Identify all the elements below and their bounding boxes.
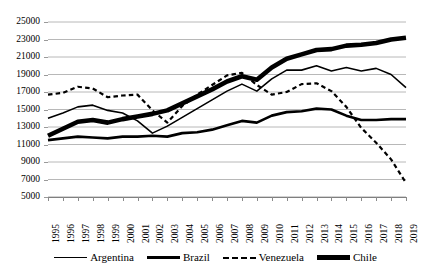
x-axis-label: 2015 (350, 224, 360, 243)
line-thick-icon (317, 255, 350, 260)
x-axis-label: 2006 (216, 224, 226, 243)
x-axis-label: 2010 (276, 224, 286, 243)
x-axis-label: 2011 (291, 224, 301, 243)
y-axis-label: 11000 (17, 140, 40, 150)
legend-item-venezuela[interactable]: Venezuela (223, 252, 304, 263)
line-dashed-icon (223, 257, 256, 259)
legend-item-brazil[interactable]: Brazil (147, 252, 210, 263)
x-axis-label: 2002 (156, 224, 166, 243)
x-axis-labels: 1995199619971998199920002001200220032004… (48, 201, 406, 247)
x-axis-label: 2013 (321, 224, 331, 243)
x-axis-label: 2014 (335, 224, 345, 243)
x-axis-label: 2007 (231, 224, 241, 243)
x-axis-label: 2005 (201, 224, 211, 243)
x-axis-label: 1999 (112, 224, 122, 243)
line-medium-icon (147, 256, 180, 259)
x-axis-label: 2016 (365, 224, 375, 243)
x-axis-label: 2000 (127, 224, 137, 243)
y-axis-label: 9000 (21, 157, 40, 167)
x-axis-label: 2017 (380, 224, 390, 243)
x-axis-label: 2009 (261, 224, 271, 243)
x-axis-label: 2003 (171, 224, 181, 243)
chart-legend: ArgentinaBrazilVenezuelaChile (0, 252, 431, 263)
x-axis-label: 2019 (410, 224, 420, 243)
series-line-chile (48, 38, 406, 136)
legend-label: Brazil (183, 252, 210, 263)
legend-label: Chile (353, 252, 377, 263)
legend-item-chile[interactable]: Chile (317, 252, 377, 263)
y-axis: 2500023000210001900017000150001300011000… (0, 22, 44, 197)
x-axis-label: 1995 (52, 224, 62, 243)
series-line-brazil (48, 109, 406, 141)
chart-figure: 2500023000210001900017000150001300011000… (0, 0, 431, 278)
y-axis-label: 13000 (16, 122, 40, 132)
x-axis-label: 1998 (97, 224, 107, 243)
y-axis-label: 25000 (16, 17, 40, 27)
legend-label: Venezuela (259, 252, 304, 263)
legend-item-argentina[interactable]: Argentina (54, 252, 134, 263)
y-axis-label: 17000 (16, 87, 40, 97)
x-axis-label: 2001 (142, 224, 152, 243)
x-axis-label: 2008 (246, 224, 256, 243)
chart-canvas (48, 22, 406, 197)
x-axis-label: 1997 (82, 224, 92, 243)
series-line-venezuela (48, 73, 406, 183)
x-axis-label: 1996 (67, 224, 77, 243)
y-axis-label: 5000 (21, 192, 40, 202)
x-axis-label: 2018 (395, 224, 405, 243)
plot-area (48, 22, 406, 197)
legend-label: Argentina (90, 252, 134, 263)
y-axis-label: 21000 (16, 52, 40, 62)
y-axis-label: 19000 (16, 70, 40, 80)
y-axis-label: 23000 (16, 35, 40, 45)
line-thin-icon (54, 257, 87, 259)
y-axis-label: 15000 (16, 105, 40, 115)
y-axis-label: 7000 (21, 175, 40, 185)
x-axis-label: 2004 (186, 224, 196, 243)
x-axis-label: 2012 (306, 224, 316, 243)
x-axis-tick (406, 197, 407, 201)
